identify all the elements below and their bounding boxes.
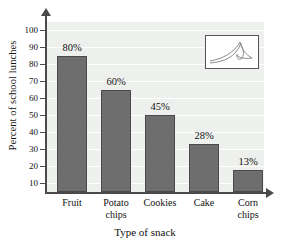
- y-axis-tick: [40, 64, 47, 65]
- bar-value-label: 60%: [96, 77, 136, 88]
- y-axis-line: [45, 14, 47, 194]
- x-axis-category-label: Corn chips: [226, 197, 270, 220]
- bar-fruit: [57, 56, 87, 192]
- y-axis-tick: [40, 183, 47, 184]
- curve-sketch-graphic-icon: [205, 35, 259, 69]
- x-axis-line: [45, 192, 267, 194]
- curve-sketch-svg: [206, 36, 258, 68]
- bar-chart-figure: Percent of school lunches 100 90 80 70 6…: [0, 0, 290, 247]
- bar-cake: [189, 144, 219, 192]
- y-axis-tick-label: 30: [16, 145, 38, 154]
- y-axis-tick-label: 20: [16, 162, 38, 171]
- bar-potato-chips: [101, 90, 131, 192]
- y-axis-tick-label: 80: [16, 60, 38, 69]
- gridline: [47, 30, 264, 31]
- y-axis-tick: [40, 30, 47, 31]
- bar-value-label: 45%: [140, 102, 180, 113]
- y-axis-tick-label: 100: [16, 26, 38, 35]
- x-axis-category-label: Potato chips: [94, 197, 138, 220]
- x-axis-category-label: Fruit: [50, 197, 94, 209]
- y-axis-tick: [40, 132, 47, 133]
- y-axis-tick: [40, 166, 47, 167]
- y-axis-tick-label: 70: [16, 77, 38, 86]
- y-axis-tick: [40, 149, 47, 150]
- y-axis-tick-label: 10: [16, 179, 38, 188]
- y-axis-tick: [40, 81, 47, 82]
- y-axis-tick-label: 50: [16, 111, 38, 120]
- bar-value-label: 80%: [52, 43, 92, 54]
- bar-value-label: 28%: [184, 131, 224, 142]
- y-axis-tick-label: 60: [16, 94, 38, 103]
- y-axis-arrow-icon: [41, 8, 51, 16]
- x-axis-category-label: Cake: [182, 197, 226, 209]
- x-axis-category-label: Cookies: [138, 197, 182, 209]
- y-axis-tick: [40, 98, 47, 99]
- y-axis-tick-label: 90: [16, 43, 38, 52]
- bar-corn-chips: [233, 170, 263, 192]
- bar-value-label: 13%: [228, 157, 268, 168]
- bar-cookies: [145, 115, 175, 192]
- y-axis-tick: [40, 115, 47, 116]
- y-axis-tick: [40, 47, 47, 48]
- y-axis-tick-label: 40: [16, 128, 38, 137]
- x-axis-title: Type of snack: [0, 226, 290, 238]
